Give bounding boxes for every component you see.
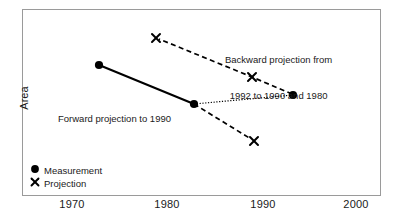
annotation-backward-line-2: 1992 to 1990 and 1980: [225, 90, 332, 102]
x-tick-label-2000: 2000: [343, 198, 368, 210]
x-tick-label-1990: 1990: [250, 198, 275, 210]
legend-label-projection: Projection: [44, 178, 86, 189]
x-tick-label-1980: 1980: [154, 198, 179, 210]
legend-label-measurement: Measurement: [44, 165, 102, 176]
legend-marker-measurement: [31, 165, 39, 173]
y-axis-label: Area: [18, 68, 30, 128]
annotation-backward-line-1: Backward projection from: [225, 54, 332, 66]
annotation-backward-projection: Backward projection from 1992 to 1990 an…: [225, 30, 332, 126]
x-tick-label-1970: 1970: [59, 198, 84, 210]
chart-figure: Area 1970 1980 1990 2000 Backward projec…: [0, 0, 397, 221]
measurement-marker-1974: [95, 61, 103, 69]
annotation-forward-projection: Forward projection to 1990: [58, 113, 171, 125]
measurement-marker-1984: [190, 100, 198, 108]
